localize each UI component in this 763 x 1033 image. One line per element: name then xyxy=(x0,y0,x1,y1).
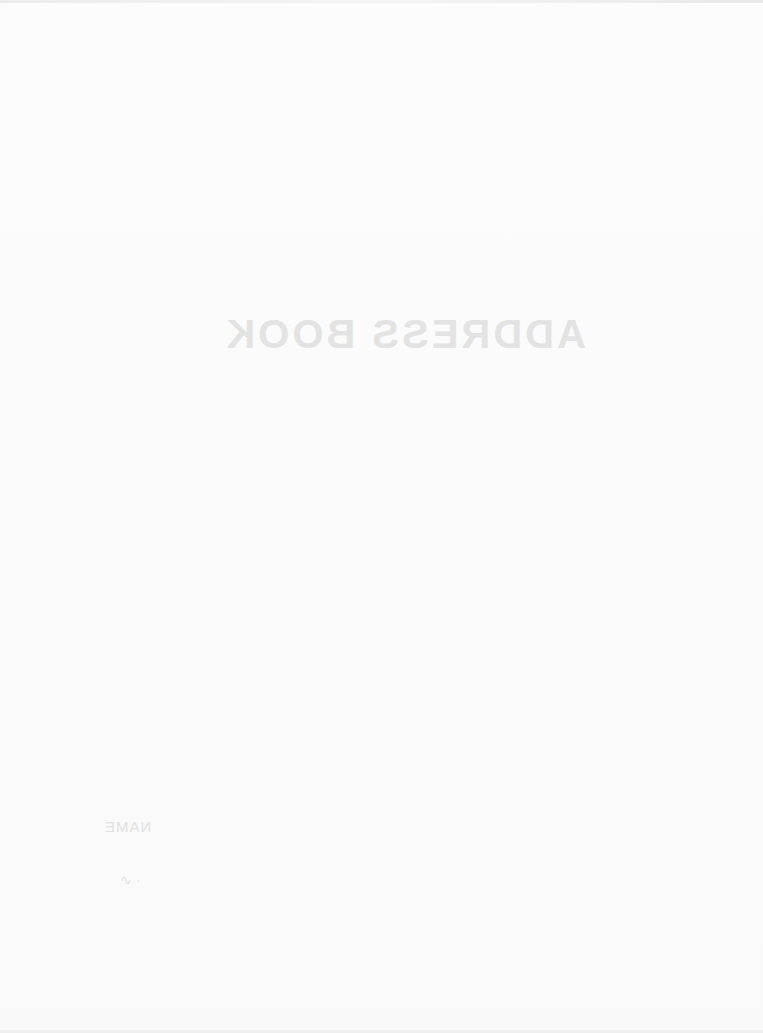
page-edge-top xyxy=(0,0,763,3)
footer-mark: ∿ · xyxy=(120,872,141,888)
page-title: ADDRESS BOOK xyxy=(226,312,586,356)
footer-label: NAME xyxy=(104,818,151,835)
scanned-page: ADDRESS BOOK NAME ∿ · xyxy=(0,0,763,1033)
